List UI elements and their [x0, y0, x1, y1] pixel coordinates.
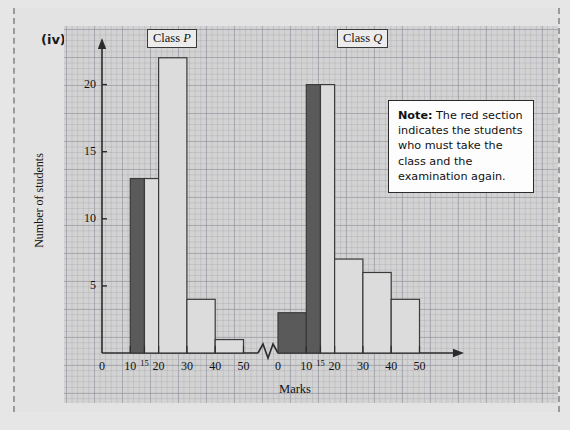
class-q-xtick-label-0: 0 — [267, 359, 289, 374]
class-p-bar-20-30 — [159, 58, 187, 353]
class-p-bar-40-50 — [215, 340, 243, 353]
class-q-xtick-label-40: 40 — [380, 359, 402, 374]
class-p-xtick-label-20: 20 — [148, 359, 170, 374]
class-p-bar-15-20 — [144, 179, 158, 353]
class-q-bar-0-10 — [278, 313, 306, 353]
y-axis-label: Number of students — [32, 131, 47, 271]
class-q-bar-20-30 — [335, 259, 363, 353]
class-q-xtick-label-50: 50 — [409, 359, 431, 374]
class-p-xtick-label-30: 30 — [176, 359, 198, 374]
axis-break-zigzag — [258, 344, 278, 358]
class-q-bar-10-15 — [306, 85, 320, 353]
x-axis-label: Marks — [265, 382, 325, 397]
class-q-bar-15-20 — [320, 85, 334, 353]
class-q-bar-40-50 — [391, 299, 419, 353]
class-q-legend-box: Class Q — [337, 29, 388, 48]
class-p-xtick-label-0: 0 — [91, 359, 113, 374]
class-p-bar-30-40 — [187, 299, 215, 353]
y-tick-label-15: 15 — [72, 144, 96, 159]
class-p-legend-text: Class P — [153, 31, 191, 45]
y-tick-label-10: 10 — [72, 211, 96, 226]
class-q-xtick-label-20: 20 — [324, 359, 346, 374]
y-axis-arrow — [98, 38, 106, 49]
class-p-bar-10-15 — [130, 179, 144, 353]
note-callout: Note: The red section indicates the stud… — [388, 100, 534, 193]
class-q-bar-30-40 — [363, 272, 391, 353]
class-p-legend-box: Class P — [147, 29, 197, 48]
class-p-xtick-label-40: 40 — [204, 359, 226, 374]
x-axis-arrow — [453, 349, 464, 357]
class-q-xtick-label-30: 30 — [352, 359, 374, 374]
class-q-legend-text: Class Q — [343, 31, 382, 45]
note-lead: Note: — [398, 109, 432, 122]
y-tick-label-5: 5 — [72, 278, 96, 293]
class-p-xtick-label-50: 50 — [233, 359, 255, 374]
y-tick-label-20: 20 — [72, 77, 96, 92]
